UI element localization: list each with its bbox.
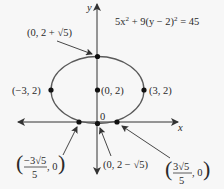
label-center-point: (0, 2) (101, 85, 124, 97)
label-x-intercept-left: ( −3√5 5 , 0 ) (16, 150, 65, 180)
ellipse-diagram: x y 0 5x2 + 9(y − 2)2 = 45 (0, 2 + √5) (… (0, 0, 224, 189)
svg-text:(: ( (16, 150, 23, 175)
point-x-intercept-right (114, 119, 119, 124)
arrow-x-intercept-left (63, 127, 77, 155)
label-right-point: (3, 2) (149, 85, 172, 97)
y-axis-label: y (86, 2, 92, 13)
svg-text:−3√5: −3√5 (24, 155, 46, 166)
label-x-intercept-right: ( 3√5 5 , 0 ) (165, 156, 210, 186)
svg-text:): ) (58, 150, 65, 175)
arrow-top-point (57, 41, 92, 54)
point-x-intercept-left (76, 119, 81, 124)
svg-text:, 0: , 0 (192, 167, 203, 178)
point-left (48, 87, 53, 92)
svg-text:(: ( (165, 156, 172, 181)
svg-text:5: 5 (32, 169, 37, 180)
arrow-x-intercept-right (122, 126, 170, 158)
svg-text:5: 5 (179, 175, 184, 186)
svg-text:, 0: , 0 (47, 161, 58, 172)
origin-label: 0 (100, 111, 105, 122)
point-center (95, 87, 100, 92)
point-bottom (95, 121, 100, 126)
equation-label: 5x2 + 9(y − 2)2 = 45 (115, 15, 199, 28)
label-top-point: (0, 2 + √5) (27, 27, 72, 39)
arrow-bottom-point (100, 128, 111, 156)
label-bottom-point: (0, 2 − √5) (103, 159, 148, 171)
point-right (141, 87, 146, 92)
svg-text:): ) (203, 156, 210, 181)
label-left-point: (−3, 2) (12, 85, 41, 97)
x-axis-label: x (177, 122, 183, 133)
point-top (95, 54, 100, 59)
svg-text:3√5: 3√5 (173, 161, 189, 172)
